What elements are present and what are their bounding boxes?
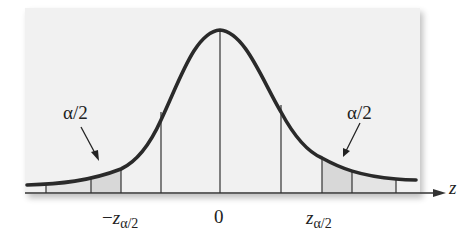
right-critical-label: zα/2 — [306, 208, 332, 231]
normal-curve-diagram — [0, 0, 459, 248]
axis-label-z: z — [449, 178, 456, 197]
alpha-half-subscript: α/2 — [120, 216, 138, 231]
z-symbol: z — [113, 207, 120, 228]
alpha-half-subscript: α/2 — [313, 216, 331, 231]
zero-label: 0 — [214, 207, 224, 226]
minus-sign: − — [102, 207, 113, 228]
panel-background — [25, 8, 420, 194]
left-tail-label: α/2 — [63, 103, 88, 122]
left-critical-label: −zα/2 — [102, 208, 138, 231]
axis-arrow-icon — [433, 189, 446, 197]
normal-distribution-figure: α/2 α/2 −zα/2 0 zα/2 z — [0, 0, 459, 248]
right-tail-label: α/2 — [347, 103, 372, 122]
